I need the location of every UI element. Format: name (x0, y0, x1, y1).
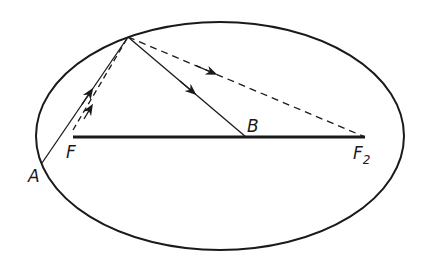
label-A: A (27, 166, 40, 186)
label-B: B (247, 116, 259, 136)
label-F2: F2 (353, 143, 370, 167)
ellipse-diagram: A F B F2 (0, 0, 426, 271)
label-F2-subscript: 2 (363, 153, 371, 167)
label-F: F (66, 142, 76, 162)
ray-F-to-P-dashed (73, 37, 128, 130)
ray-P-to-F2-arrow (196, 66, 212, 73)
label-F2-main: F (353, 143, 363, 163)
ray-P-to-B-arrow (180, 81, 192, 91)
